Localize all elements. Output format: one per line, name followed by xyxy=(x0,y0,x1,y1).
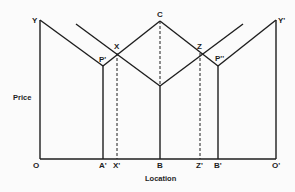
label-p-prime: P' xyxy=(99,55,106,64)
axis-label-o-prime: O' xyxy=(272,161,280,170)
axis-label-b: B xyxy=(157,161,163,170)
label-x: X xyxy=(114,42,120,51)
line-b-to-upper-right xyxy=(160,24,243,86)
price-location-diagram: Y Y' P' X C Z P'' O A' X' B Z' B' O' Pri… xyxy=(0,0,295,192)
axis-label-a-prime: A' xyxy=(99,161,107,170)
axis-label-z-prime: Z' xyxy=(196,161,203,170)
label-y-prime: Y' xyxy=(278,16,285,25)
line-y-to-p1 xyxy=(40,20,103,66)
line-p2-to-y2 xyxy=(218,20,276,66)
label-z: Z xyxy=(197,42,202,51)
y-axis-title: Price xyxy=(13,93,31,102)
axis-label-o: O xyxy=(33,161,39,170)
label-c: C xyxy=(157,10,163,19)
label-p-double-prime: P'' xyxy=(215,54,224,63)
label-y: Y xyxy=(32,16,38,25)
axis-label-b-prime: B' xyxy=(214,161,222,170)
line-p1-to-c xyxy=(103,21,160,66)
x-axis-title: Location xyxy=(145,174,177,183)
line-c-to-p2 xyxy=(160,21,218,66)
axis-label-x-prime: X' xyxy=(113,161,120,170)
